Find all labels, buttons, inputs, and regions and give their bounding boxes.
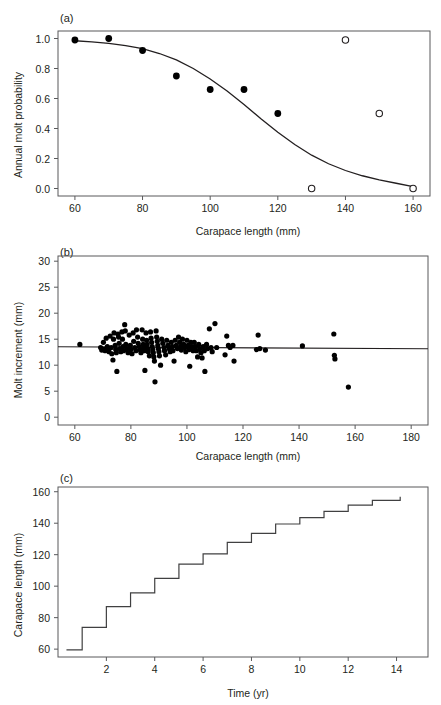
- y-tick-label: 160: [32, 486, 50, 498]
- data-point-filled: [135, 335, 140, 340]
- data-point-filled: [171, 358, 176, 363]
- x-tick-label: 60: [69, 202, 81, 214]
- growth-staircase: [66, 497, 400, 650]
- x-tick-label: 160: [404, 202, 422, 214]
- y-tick-label: 0.6: [35, 93, 50, 105]
- plot-frame: [58, 487, 428, 657]
- data-point-filled: [207, 326, 212, 331]
- panel-b-yaxis-title: Molt increment (mm): [12, 302, 24, 398]
- x-tick-label: 60: [69, 431, 81, 443]
- x-tick-label: 10: [294, 663, 306, 675]
- data-point-filled: [214, 345, 219, 350]
- data-point-open: [342, 37, 348, 43]
- data-point-filled: [187, 364, 192, 369]
- x-tick-label: 120: [269, 202, 287, 214]
- data-point-filled: [158, 363, 163, 368]
- data-point-filled: [143, 330, 148, 335]
- panel-a-xaxis-title: Carapace length (mm): [196, 225, 300, 237]
- data-point-filled: [173, 73, 180, 80]
- y-tick-label: 100: [32, 580, 50, 592]
- y-tick-label: 5: [44, 385, 50, 397]
- x-tick-label: 6: [200, 663, 206, 675]
- x-tick-label: 12: [342, 663, 354, 675]
- x-tick-label: 140: [290, 431, 308, 443]
- x-tick-label: 80: [137, 202, 149, 214]
- y-tick-label: 120: [32, 549, 50, 561]
- panel-b-svg: (b) 6080100120140160180051015202530 Cara…: [0, 240, 441, 465]
- panel-c-svg: (c) 24681012146080100120140160 Time (yr)…: [0, 465, 441, 705]
- panel-b-xaxis-title: Carapace length (mm): [196, 450, 300, 462]
- data-point-filled: [331, 331, 336, 336]
- data-point-filled: [152, 358, 157, 363]
- data-point-filled: [154, 328, 159, 333]
- x-tick-label: 140: [337, 202, 355, 214]
- y-tick-label: 0.8: [35, 63, 50, 75]
- x-tick-label: 100: [201, 202, 219, 214]
- y-tick-label: 140: [32, 517, 50, 529]
- data-point-filled: [120, 337, 125, 342]
- panel-c-yaxis-title: Carapace length (mm): [12, 533, 24, 637]
- x-tick-label: 2: [103, 663, 109, 675]
- y-tick-label: 60: [38, 643, 50, 655]
- data-point-filled: [142, 368, 147, 373]
- data-point-filled: [152, 379, 157, 384]
- data-point-filled: [263, 348, 268, 353]
- data-point-filled: [109, 351, 114, 356]
- data-point-filled: [122, 322, 127, 327]
- x-tick-label: 100: [178, 431, 196, 443]
- y-tick-label: 0.0: [35, 183, 50, 195]
- data-point-filled: [163, 352, 168, 357]
- data-point-open: [376, 110, 382, 116]
- data-point-filled: [123, 328, 128, 333]
- y-tick-label: 25: [38, 281, 50, 293]
- data-point-filled: [210, 349, 215, 354]
- panel-a-yaxis-title: Annual molt probability: [12, 71, 24, 178]
- data-point-filled: [300, 343, 305, 348]
- panel-a-svg: (a) 60801001201401600.00.20.40.60.81.0 C…: [0, 0, 441, 240]
- y-tick-label: 0.2: [35, 153, 50, 165]
- y-tick-label: 30: [38, 255, 50, 267]
- x-tick-label: 160: [346, 431, 364, 443]
- data-point-filled: [134, 327, 139, 332]
- x-tick-label: 120: [234, 431, 252, 443]
- data-point-filled: [207, 86, 214, 93]
- data-point-filled: [274, 110, 281, 117]
- x-tick-label: 8: [249, 663, 255, 675]
- y-tick-label: 80: [38, 612, 50, 624]
- data-point-filled: [170, 348, 175, 353]
- data-point-filled: [346, 384, 351, 389]
- data-point-filled: [199, 355, 204, 360]
- x-tick-label: 4: [152, 663, 158, 675]
- data-point-filled: [241, 86, 248, 93]
- plot-frame: [58, 31, 430, 196]
- x-tick-label: 180: [402, 431, 420, 443]
- x-tick-label: 80: [125, 431, 137, 443]
- data-point-filled: [202, 369, 207, 374]
- panel-c-growth-trajectory: (c) 24681012146080100120140160 Time (yr)…: [0, 465, 441, 705]
- data-point-filled: [164, 338, 169, 343]
- data-point-filled: [77, 342, 82, 347]
- data-point-filled: [195, 354, 200, 359]
- data-point-filled: [114, 350, 119, 355]
- figure-three-panel-growth: (a) 60801001201401600.00.20.40.60.81.0 C…: [0, 0, 441, 705]
- y-tick-label: 0: [44, 411, 50, 423]
- x-tick-label: 14: [391, 663, 403, 675]
- data-point-filled: [230, 343, 235, 348]
- data-point-filled: [110, 357, 115, 362]
- panel-b-molt-increment: (b) 6080100120140160180051015202530 Cara…: [0, 240, 441, 465]
- y-tick-label: 10: [38, 359, 50, 371]
- panel-c-label: (c): [60, 472, 73, 484]
- data-point-filled: [148, 329, 153, 334]
- data-point-open: [308, 185, 314, 191]
- data-point-filled: [157, 353, 162, 358]
- y-tick-label: 20: [38, 307, 50, 319]
- data-point-filled: [332, 356, 337, 361]
- data-point-filled: [111, 337, 116, 342]
- y-tick-label: 0.4: [35, 123, 50, 135]
- data-point-filled: [222, 352, 227, 357]
- data-point-filled: [212, 321, 217, 326]
- panel-a-molt-probability: (a) 60801001201401600.00.20.40.60.81.0 C…: [0, 0, 441, 240]
- data-point-filled: [257, 346, 262, 351]
- data-point-filled: [180, 337, 185, 342]
- fitted-logistic-curve: [75, 41, 413, 187]
